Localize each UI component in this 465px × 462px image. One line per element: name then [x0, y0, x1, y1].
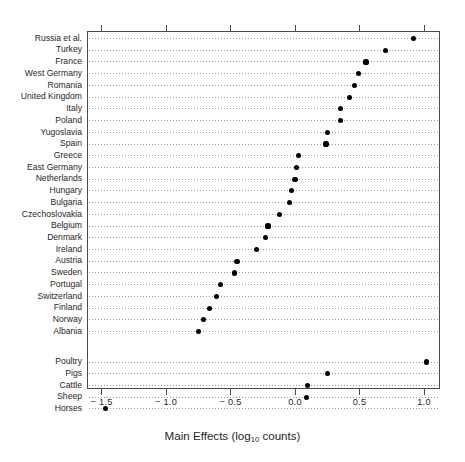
- dot-plot-row[interactable]: Bulgaria: [0, 197, 465, 209]
- dot-plot-row[interactable]: Czechoslovakia: [0, 209, 465, 221]
- data-point-marker[interactable]: [296, 153, 301, 158]
- data-point-marker[interactable]: [305, 383, 310, 388]
- dot-plot-row[interactable]: Portugal: [0, 279, 465, 291]
- data-point-marker[interactable]: [294, 165, 299, 170]
- data-point-marker[interactable]: [201, 317, 206, 322]
- x-axis-label: Main Effects (log10 counts): [0, 429, 465, 442]
- data-point-marker[interactable]: [263, 235, 268, 240]
- row-guideline: [89, 284, 438, 285]
- x-axis-tick-label: − 1.0: [136, 397, 196, 407]
- row-category-label: Horses: [0, 403, 82, 415]
- dot-plot-row[interactable]: Romania: [0, 80, 465, 92]
- data-point-marker[interactable]: [218, 282, 223, 287]
- row-guideline: [89, 144, 438, 145]
- data-point-marker[interactable]: [323, 141, 328, 146]
- x-axis-tick-label: 0.5: [330, 397, 390, 407]
- dot-plot-row[interactable]: Poultry: [0, 356, 465, 368]
- x-axis-tick: [359, 389, 360, 395]
- dot-plot-row[interactable]: East Germany: [0, 162, 465, 174]
- row-category-label: Finland: [0, 302, 82, 314]
- x-axis-tick-label: 1.0: [394, 397, 454, 407]
- row-guideline: [89, 155, 438, 156]
- dot-plot-row[interactable]: Sweden: [0, 267, 465, 279]
- row-category-label: Cattle: [0, 380, 82, 392]
- dot-plot-row[interactable]: Netherlands: [0, 173, 465, 185]
- row-category-label: Austria: [0, 255, 82, 267]
- row-guideline: [89, 85, 438, 86]
- dot-plot-row[interactable]: Austria: [0, 255, 465, 267]
- x-axis-tick: [230, 389, 231, 395]
- dot-plot-row[interactable]: Belgium: [0, 220, 465, 232]
- x-axis-tick: [101, 389, 102, 395]
- data-point-marker[interactable]: [424, 359, 429, 364]
- dot-plot-row[interactable]: Russia et al.: [0, 33, 465, 45]
- data-point-marker[interactable]: [254, 247, 259, 252]
- data-point-marker[interactable]: [338, 118, 343, 123]
- dot-plot-row[interactable]: France: [0, 56, 465, 68]
- data-point-marker[interactable]: [103, 406, 108, 411]
- dot-plot-row[interactable]: Albania: [0, 326, 465, 338]
- data-point-marker[interactable]: [232, 270, 237, 275]
- row-category-label: Poultry: [0, 356, 82, 368]
- row-category-label: Denmark: [0, 232, 82, 244]
- dot-plot-row[interactable]: Turkey: [0, 44, 465, 56]
- dot-plot-row[interactable]: Greece: [0, 150, 465, 162]
- dot-plot-row[interactable]: Poland: [0, 115, 465, 127]
- dot-plot-row[interactable]: Spain: [0, 138, 465, 150]
- data-point-marker[interactable]: [347, 95, 352, 100]
- row-guideline: [89, 179, 438, 180]
- x-axis-tick-top: [424, 25, 425, 31]
- row-category-label: Poland: [0, 115, 82, 127]
- row-category-label: Pigs: [0, 368, 82, 380]
- data-point-marker[interactable]: [356, 71, 361, 76]
- row-guideline: [89, 108, 438, 109]
- data-point-marker[interactable]: [325, 130, 330, 135]
- dot-plot-row[interactable]: Norway: [0, 314, 465, 326]
- row-guideline: [89, 190, 438, 191]
- dot-plot-row[interactable]: Cattle: [0, 380, 465, 392]
- dot-plot-row[interactable]: Italy: [0, 103, 465, 115]
- row-guideline: [89, 331, 438, 332]
- data-point-marker[interactable]: [338, 106, 343, 111]
- dot-plot-figure: Russia et al.TurkeyFranceWest GermanyRom…: [0, 0, 465, 462]
- data-point-marker[interactable]: [383, 48, 388, 53]
- dot-plot-row[interactable]: Denmark: [0, 232, 465, 244]
- dot-plot-row[interactable]: Hungary: [0, 185, 465, 197]
- dot-plot-row[interactable]: Ireland: [0, 244, 465, 256]
- row-category-label: Bulgaria: [0, 197, 82, 209]
- row-guideline: [89, 61, 438, 62]
- data-point-marker[interactable]: [277, 212, 282, 217]
- row-guideline: [89, 120, 438, 121]
- row-guideline: [89, 214, 438, 215]
- row-guideline: [89, 408, 438, 409]
- x-axis-tick-top: [295, 25, 296, 31]
- x-axis-tick-label: − 0.5: [201, 397, 261, 407]
- data-point-marker[interactable]: [234, 259, 239, 264]
- x-axis-label-sub: 10: [251, 435, 259, 444]
- dot-plot-row[interactable]: Yugoslavia: [0, 127, 465, 139]
- dot-plot-row[interactable]: Pigs: [0, 368, 465, 380]
- row-category-label: Norway: [0, 314, 82, 326]
- dot-plot-row[interactable]: Switzerland: [0, 291, 465, 303]
- dot-plot-row[interactable]: Finland: [0, 302, 465, 314]
- row-guideline: [89, 362, 438, 363]
- row-guideline: [89, 319, 438, 320]
- x-axis-tick-top: [230, 25, 231, 31]
- row-guideline: [89, 373, 438, 374]
- row-category-label: United Kingdom: [0, 91, 82, 103]
- data-point-marker[interactable]: [411, 36, 416, 41]
- dot-plot-row[interactable]: United Kingdom: [0, 91, 465, 103]
- row-category-label: Romania: [0, 80, 82, 92]
- data-point-marker[interactable]: [325, 371, 330, 376]
- data-point-marker[interactable]: [207, 306, 212, 311]
- data-point-marker[interactable]: [292, 177, 297, 182]
- data-point-marker[interactable]: [287, 200, 292, 205]
- data-point-marker[interactable]: [352, 83, 357, 88]
- row-category-label: Sweden: [0, 267, 82, 279]
- data-point-marker[interactable]: [196, 329, 201, 334]
- data-point-marker[interactable]: [214, 294, 219, 299]
- dot-plot-row[interactable]: West Germany: [0, 68, 465, 80]
- data-point-marker[interactable]: [289, 188, 294, 193]
- data-point-marker[interactable]: [265, 223, 270, 228]
- data-point-marker[interactable]: [363, 59, 368, 64]
